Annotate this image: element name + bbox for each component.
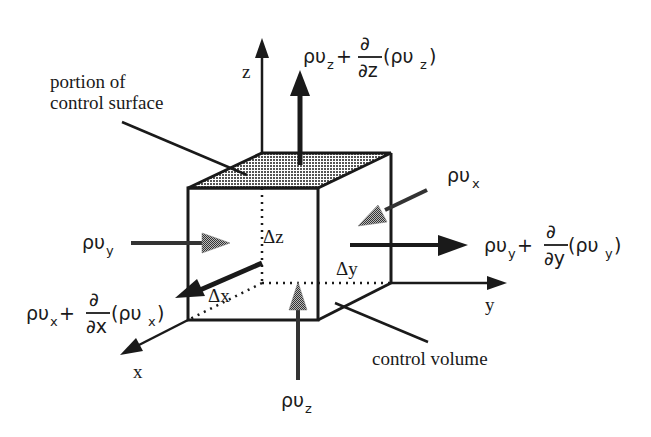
svg-text:ρυ: ρυ — [26, 302, 49, 324]
svg-text:z: z — [305, 401, 312, 416]
svg-text:y: y — [508, 246, 516, 261]
svg-text:): ) — [614, 234, 621, 256]
svg-text:y: y — [605, 246, 613, 261]
svg-text:(ρυ: (ρυ — [568, 234, 598, 256]
diagram-canvas: z y x Δz Δy Δx portion of control surfac… — [0, 0, 651, 437]
svg-text:ρυ: ρυ — [303, 45, 326, 67]
svg-text:+: + — [517, 234, 533, 256]
svg-text:(ρυ: (ρυ — [383, 45, 413, 67]
svg-text:ρυ: ρυ — [484, 234, 507, 256]
dx-label: Δx — [208, 285, 230, 306]
svg-text:x: x — [50, 314, 58, 329]
svg-text:): ) — [157, 302, 164, 324]
volume-leader-line — [335, 303, 428, 342]
z-axis-label: z — [242, 61, 250, 82]
flux-in-x-label: ρυ x — [447, 164, 480, 191]
flux-in-y-arrow — [131, 233, 230, 253]
surface-leader-line — [122, 122, 247, 175]
svg-text:+: + — [59, 302, 75, 324]
y-axis — [391, 276, 507, 290]
flux-in-z-arrow — [289, 282, 307, 380]
z-axis — [255, 38, 269, 153]
svg-text:∂x: ∂x — [86, 315, 107, 337]
svg-text:y: y — [106, 243, 114, 258]
svg-text:∂: ∂ — [89, 288, 99, 310]
y-axis-label: y — [485, 294, 495, 315]
svg-text:ρυ: ρυ — [82, 231, 105, 253]
svg-text:ρυ: ρυ — [447, 164, 470, 186]
flux-out-z-arrow — [290, 70, 310, 165]
svg-text:∂: ∂ — [546, 220, 556, 242]
control-volume-label: control volume — [372, 348, 488, 369]
svg-text:): ) — [429, 45, 436, 67]
svg-text:z: z — [327, 57, 334, 72]
flux-out-z-label: ρυ z + ∂ ∂z (ρυ z ) — [303, 32, 436, 81]
flux-in-z-label: ρυ z — [281, 389, 312, 416]
svg-text:(ρυ: (ρυ — [111, 302, 141, 324]
svg-text:∂z: ∂z — [358, 59, 378, 81]
svg-text:ρυ: ρυ — [281, 389, 304, 411]
control-surface-label-line2: control surface — [50, 92, 163, 113]
svg-text:z: z — [420, 57, 427, 72]
flux-out-x-label: ρυ x + ∂ ∂x (ρυ x ) — [26, 288, 164, 337]
flux-out-y-label: ρυ y + ∂ ∂y (ρυ y ) — [484, 220, 621, 269]
dy-label: Δy — [336, 258, 358, 279]
control-surface-label-line1: portion of — [50, 71, 126, 92]
top-face-control-surface — [188, 153, 391, 188]
svg-text:x: x — [148, 314, 156, 329]
svg-text:∂: ∂ — [360, 32, 370, 54]
x-axis-label: x — [133, 361, 143, 382]
svg-text:+: + — [336, 45, 352, 67]
flux-in-y-label: ρυ y — [82, 231, 114, 258]
svg-text:x: x — [472, 176, 480, 191]
dz-label: Δz — [263, 226, 284, 247]
flux-out-y-arrow — [350, 235, 468, 256]
svg-text:∂y: ∂y — [544, 247, 565, 269]
